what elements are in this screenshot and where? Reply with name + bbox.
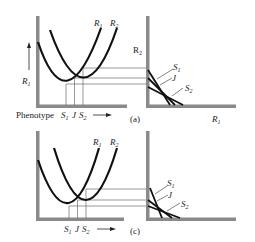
- diagram-canvas: R1 R1 R2 Phenotype S1 J S2 R2 R1: [0, 0, 255, 242]
- panel-a-curve-label-r2: R2: [109, 18, 119, 29]
- panel-a-marker-j: J: [72, 110, 77, 120]
- panel-c-marker-s2: S2: [82, 224, 90, 235]
- panel-c-marker-j: J: [75, 224, 80, 234]
- panel-c-curve-r1: [38, 148, 99, 203]
- panel-a-line-label-s1: S1: [173, 62, 181, 73]
- panel-c-line-label-s2: S2: [181, 199, 189, 210]
- panel-a-line-label-j: J: [172, 73, 177, 83]
- panel-a-caption: (a): [130, 114, 140, 124]
- panel-c-curve-label-r1: R1: [92, 137, 102, 148]
- panel-a: R1 R1 R2 Phenotype S1 J S2 R2 R1: [16, 16, 236, 125]
- panel-c-line-label-j: J: [168, 190, 173, 200]
- panel-c-left-x-axis: [36, 218, 124, 222]
- right-arrow-icon: [97, 227, 116, 231]
- panel-a-right-lines: [148, 70, 183, 105]
- panel-a-marker-s1: S1: [61, 110, 69, 121]
- panel-a-right-x-label: R1: [211, 114, 221, 125]
- panel-c-right-x-axis: [146, 218, 236, 222]
- panel-c-caption: (c): [130, 226, 140, 236]
- panel-a-y-label: R1: [21, 76, 31, 87]
- panel-a-right-y-label: R2: [133, 45, 142, 56]
- panel-a-x-label: Phenotype: [16, 110, 54, 120]
- up-arrow-icon: [27, 42, 31, 70]
- panel-c-right-lines: [148, 188, 180, 218]
- panel-c-curve-r2: [54, 148, 117, 200]
- panel-c-marker-s1: S1: [64, 224, 72, 235]
- panel-a-curve-r2: [50, 28, 117, 78]
- panel-a-left-y-axis: [36, 16, 40, 108]
- panel-a-right-y-axis: [146, 16, 150, 108]
- panel-c: R1 R2 S1 J S2 S1 J S2 (c): [36, 131, 236, 236]
- right-arrow-icon: [93, 113, 112, 117]
- panel-a-marker-s2: S2: [79, 110, 87, 121]
- panel-a-curve-label-r1: R1: [93, 18, 103, 29]
- panel-c-line-label-s1: S1: [167, 178, 175, 189]
- panel-c-right-y-axis: [146, 131, 150, 221]
- panel-a-line-label-s2: S2: [185, 83, 193, 94]
- panel-a-left-x-axis: [36, 105, 127, 109]
- panel-c-curve-label-r2: R2: [109, 137, 119, 148]
- panel-c-left-y-axis: [36, 131, 40, 221]
- panel-a-right-x-axis: [146, 105, 236, 109]
- panel-a-curve-r1: [38, 28, 101, 81]
